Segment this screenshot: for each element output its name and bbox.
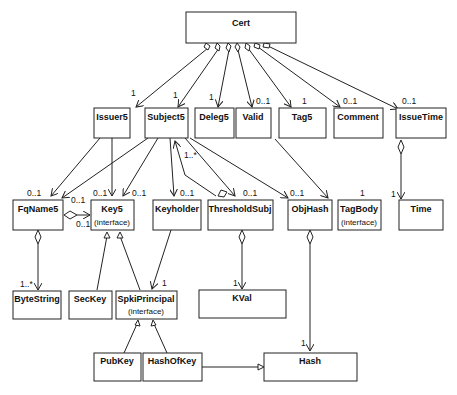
class-name: Cert xyxy=(232,18,250,28)
class-cert: Cert xyxy=(186,12,296,43)
mult-cert-valid: 0..1 xyxy=(256,96,270,106)
class-spkiprincipal: SpkiPrincipal (interface) xyxy=(116,291,177,319)
svg-text:Hash: Hash xyxy=(299,356,321,366)
stereotype: (interface) xyxy=(94,218,130,227)
svg-text:ThresholdSubj: ThresholdSubj xyxy=(209,204,272,214)
mult-cert-tag5: 1 xyxy=(302,96,307,106)
mult-subject5-thresholdsubj: 0..1 xyxy=(243,188,257,198)
svg-text:IssueTime: IssueTime xyxy=(399,112,443,122)
class-comment: Comment xyxy=(334,108,383,138)
mult-cert-comment: 0..1 xyxy=(343,96,357,106)
mult-issuer5-key5: 0..1 xyxy=(93,188,107,198)
mult-keyholder-spkiprincipal: 1 xyxy=(162,278,167,288)
mult-fqname5-key5: 0..1 xyxy=(76,219,90,229)
svg-text:HashOfKey: HashOfKey xyxy=(148,356,197,366)
class-objhash: ObjHash xyxy=(288,200,332,230)
mult-cert-issuer5: 1 xyxy=(131,88,136,98)
class-tag5: Tag5 xyxy=(279,108,326,138)
svg-text:ByteString: ByteString xyxy=(14,294,60,304)
edge-cert-comment xyxy=(258,47,340,107)
edge-cert-valid xyxy=(238,50,252,107)
mult-cert-issuetime: 0..1 xyxy=(402,96,416,106)
mult-subject5-keyholder: 0..1 xyxy=(180,188,194,198)
svg-text:Subject5: Subject5 xyxy=(147,112,185,122)
svg-text:Time: Time xyxy=(411,204,432,214)
mult-issuetime-time: 1 xyxy=(391,189,396,199)
class-fqname5: FqName5 xyxy=(13,200,63,230)
class-pubkey: PubKey xyxy=(94,353,141,381)
class-valid: Valid xyxy=(236,108,271,138)
class-issuetime: IssueTime xyxy=(396,108,446,138)
class-keyholder: Keyholder xyxy=(153,200,201,230)
svg-text:PubKey: PubKey xyxy=(100,356,134,366)
mult-objhash-hash: 1 xyxy=(301,338,306,348)
svg-text:Keyholder: Keyholder xyxy=(155,204,200,214)
mult-subject5-fqname5: 0..1 xyxy=(71,195,85,205)
mult-thresholdsubj-kval: 1 xyxy=(233,278,238,288)
class-hashofkey: HashOfKey xyxy=(143,353,202,381)
svg-text:Comment: Comment xyxy=(337,112,379,122)
svg-text:SecKey: SecKey xyxy=(74,294,107,304)
mult-subject5-key5: 0..1 xyxy=(132,188,146,198)
svg-text:FqName5: FqName5 xyxy=(18,204,59,214)
class-key5: Key5 (interface) xyxy=(91,200,134,230)
stereotype: (interface) xyxy=(128,307,164,316)
mult-fqname5-bytestring: 1..* xyxy=(20,279,33,289)
mult-tag5-tagbody: 1 xyxy=(360,188,365,198)
svg-text:ObjHash: ObjHash xyxy=(291,204,328,214)
stereotype: (interface) xyxy=(341,218,377,227)
edge-pubkey-spkiprincipal xyxy=(124,324,137,353)
class-time: Time xyxy=(399,200,443,230)
edge-hashofkey-spkiprincipal xyxy=(154,324,167,353)
class-thresholdsubj: ThresholdSubj xyxy=(208,200,273,230)
svg-text:Deleg5: Deleg5 xyxy=(199,112,229,122)
class-seckey: SecKey xyxy=(69,291,112,319)
class-hash: Hash xyxy=(264,353,357,381)
class-issuer5: Issuer5 xyxy=(94,108,130,138)
svg-text:Issuer5: Issuer5 xyxy=(96,112,128,122)
class-deleg5: Deleg5 xyxy=(195,108,234,138)
svg-text:KVal: KVal xyxy=(232,293,252,303)
svg-text:Key5: Key5 xyxy=(101,204,123,214)
mult-thresholdsubj-subject5: 1..* xyxy=(184,150,197,160)
edge-cert-issuetime xyxy=(268,46,398,109)
mult-cert-subject5: 1 xyxy=(173,90,178,100)
class-bytestring: ByteString xyxy=(13,291,61,319)
svg-text:Tag5: Tag5 xyxy=(292,112,312,122)
edge-cert-deleg5 xyxy=(218,50,229,107)
edge-seckey-key5 xyxy=(97,236,107,290)
mult-subject5-objhash: 0..1 xyxy=(290,188,304,198)
svg-text:SpkiPrincipal: SpkiPrincipal xyxy=(117,294,174,304)
class-kval: KVal xyxy=(199,290,286,318)
class-tagbody: TagBody (interface) xyxy=(338,200,381,230)
mult-cert-deleg5: 1 xyxy=(209,92,214,102)
edge-cert-issuer5 xyxy=(136,48,208,107)
mult-issuer5-fqname5: 0..1 xyxy=(27,188,41,198)
uml-class-diagram: Cert Issuer5 Subject5 Deleg5 Valid Tag5 … xyxy=(0,0,457,395)
edge-subject5-objhash xyxy=(190,138,288,198)
edge-subject5-keyholder xyxy=(170,138,174,196)
class-subject5: Subject5 xyxy=(145,108,188,138)
edge-spkiprincipal-key5 xyxy=(120,236,140,290)
svg-text:TagBody: TagBody xyxy=(340,204,378,214)
svg-text:Valid: Valid xyxy=(242,112,263,122)
